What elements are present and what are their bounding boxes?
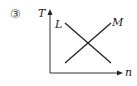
series-label-L: L <box>55 19 62 30</box>
series-label-M: M <box>112 17 123 28</box>
x-axis-arrow-icon <box>117 71 123 76</box>
y-axis-label: T <box>38 8 45 19</box>
y-axis-arrow-icon <box>48 9 53 15</box>
chart-plot <box>0 0 137 86</box>
x-axis-label: n <box>125 67 132 78</box>
